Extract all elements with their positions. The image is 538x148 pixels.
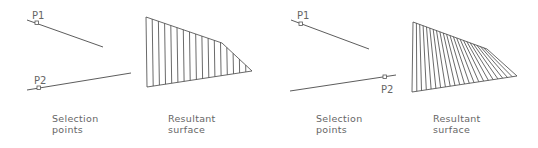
ruling-line (208, 38, 209, 77)
ruling-line (412, 22, 413, 92)
ruling-line (202, 36, 203, 78)
ruling-line (477, 45, 503, 78)
ruling-line (190, 32, 191, 81)
ruling-line (227, 48, 228, 75)
p1-label: P1 (32, 10, 44, 21)
caption-line: Resultant (433, 113, 481, 124)
p1-marker (35, 21, 39, 25)
ruling-line (453, 37, 469, 84)
caption-resultant-surface-1: Resultant surface (168, 113, 216, 135)
ruling-line (146, 17, 147, 87)
surface-edge (146, 17, 252, 71)
ruling-line (177, 28, 178, 83)
caption-line: surface (433, 124, 481, 135)
ruling-line (171, 26, 172, 84)
selection-points-panel-2: P1 P2 (290, 10, 396, 95)
ruling-line (423, 26, 426, 90)
ruling-line (183, 30, 184, 82)
surface-edge (147, 71, 252, 87)
p2-label: P2 (381, 84, 393, 95)
caption-line: Selection (316, 113, 362, 124)
ruling-line (487, 49, 517, 76)
p2-marker (383, 75, 387, 79)
ruling-line (221, 43, 222, 76)
ruling-line (158, 21, 159, 85)
ruling-line (420, 25, 422, 91)
ruling-line (474, 44, 498, 79)
caption-line: surface (168, 124, 216, 135)
caption-line: Selection (52, 113, 98, 124)
caption-line: points (52, 124, 98, 135)
p2-label: P2 (34, 75, 46, 86)
caption-line: Resultant (168, 113, 216, 124)
p2-marker (37, 86, 41, 90)
caption-selection-points-2: Selection points (316, 113, 362, 135)
caption-resultant-surface-2: Resultant surface (433, 113, 481, 135)
ruling-line (165, 23, 166, 84)
p1-label: P1 (297, 10, 309, 21)
resultant-surface-1 (146, 17, 252, 87)
selection-points-panel-1: P1 P2 (27, 10, 131, 90)
ruling-line (214, 40, 215, 76)
ruling-line (433, 29, 440, 87)
ruling-line (152, 19, 153, 86)
ruling-line (196, 34, 197, 80)
caption-line: points (316, 124, 362, 135)
caption-selection-points-1: Selection points (52, 113, 98, 135)
resultant-surface-2 (412, 22, 517, 92)
p1-marker (299, 22, 303, 26)
